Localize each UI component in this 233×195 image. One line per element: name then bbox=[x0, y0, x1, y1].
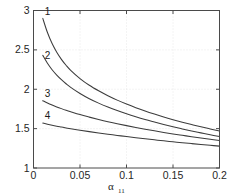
curve-number-label-1: 1 bbox=[45, 6, 51, 17]
curve-series-3 bbox=[43, 101, 220, 141]
y-tick-label: 1 bbox=[24, 162, 30, 174]
y-tick-label: 2.5 bbox=[15, 43, 30, 55]
x-axis-title-symbol: α bbox=[108, 180, 114, 192]
x-tick-label: 0.2 bbox=[212, 169, 227, 181]
x-tick-label: 0.1 bbox=[119, 169, 134, 181]
x-tick-labels: 00.050.10.150.2 bbox=[31, 169, 227, 181]
y-tick-label: 3 bbox=[24, 4, 30, 16]
x-axis-title: α 11 bbox=[108, 180, 125, 195]
line-chart-canvas: 00.050.10.150.2 11.522.53 1234 α 11 bbox=[0, 0, 233, 195]
y-tick-labels: 11.522.53 bbox=[15, 4, 30, 174]
curve-number-label-4: 4 bbox=[45, 110, 51, 121]
x-tick-label: 0.15 bbox=[163, 169, 184, 181]
curve-number-label-2: 2 bbox=[45, 50, 51, 61]
y-tick-label: 1.5 bbox=[15, 122, 30, 134]
x-tick-label: 0.05 bbox=[70, 169, 91, 181]
curves-group bbox=[43, 18, 220, 146]
x-tick-label: 0 bbox=[31, 169, 37, 181]
y-tick-label: 2 bbox=[24, 83, 30, 95]
chart-figure: 00.050.10.150.2 11.522.53 1234 α 11 bbox=[0, 0, 233, 195]
gridlines-group bbox=[34, 11, 220, 169]
curve-number-label-3: 3 bbox=[45, 88, 51, 99]
x-axis-title-subscript: 11 bbox=[118, 187, 125, 195]
curve-series-2 bbox=[43, 55, 220, 136]
curve-series-1 bbox=[43, 18, 220, 131]
